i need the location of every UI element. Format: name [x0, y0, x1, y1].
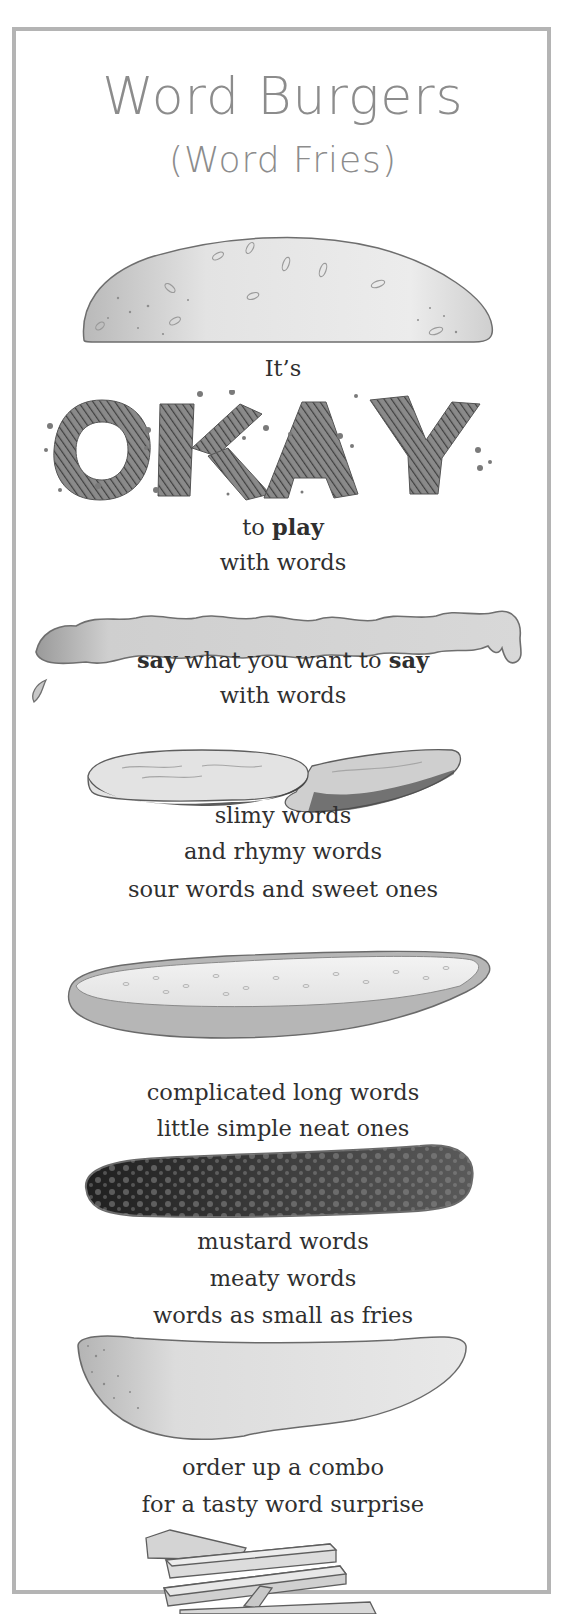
text-say-bold-2: say	[389, 647, 429, 673]
text-what-you-want-to: what you want to	[177, 647, 389, 673]
line-to-play: to play	[0, 512, 566, 542]
patty-illustration	[80, 1140, 480, 1222]
poem-subtitle: (Word Fries)	[0, 134, 566, 186]
poem-title: Word Burgers	[0, 64, 566, 128]
line-rhymy: and rhymy words	[0, 836, 566, 866]
fries-illustration	[140, 1526, 390, 1614]
line-order: order up a combo	[0, 1452, 566, 1482]
line-tasty: for a tasty word surprise	[0, 1489, 566, 1519]
line-little: little simple neat ones	[0, 1113, 566, 1143]
line-with-words-1: with words	[0, 547, 566, 577]
text-play-bold: play	[272, 514, 324, 540]
okay-lettering	[40, 390, 520, 510]
cucumber-illustration	[66, 948, 496, 1048]
line-sour: sour words and sweet ones	[0, 874, 566, 904]
line-with-words-2: with words	[0, 680, 566, 710]
line-mustard: mustard words	[0, 1226, 566, 1256]
line-small-fries: words as small as fries	[0, 1300, 566, 1330]
line-say-what-you-want: say what you want to say	[0, 645, 566, 675]
text-say-bold-1: say	[137, 647, 177, 673]
top-bun-illustration	[78, 228, 504, 348]
bottom-bun-illustration	[74, 1332, 474, 1444]
line-complicated: complicated long words	[0, 1077, 566, 1107]
line-meaty: meaty words	[0, 1263, 566, 1293]
text-to: to	[242, 514, 272, 540]
line-its: It’s	[0, 353, 566, 383]
line-slimy: slimy words	[0, 800, 566, 830]
